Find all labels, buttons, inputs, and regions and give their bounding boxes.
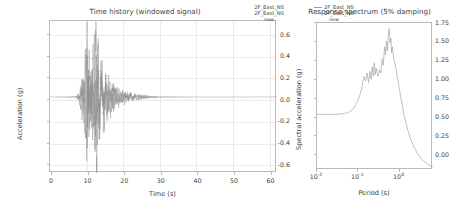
- legend-entry: 2F_East_NS: [254, 10, 284, 16]
- xtick-label: 10-2: [303, 174, 329, 180]
- xtick-label: 10-1: [344, 174, 370, 180]
- response-spectrum-xlabel: Period (s): [316, 189, 432, 197]
- response-spectrum-panel: Response spectrum (5% damping) Period (s…: [290, 0, 449, 207]
- response-spectrum-ylabel: Spectral acceleration (g): [295, 69, 303, 150]
- time-history-title: Time history (windowed signal): [0, 7, 290, 16]
- response-spectrum-legend: 2F_East_NS 2F_East_NS new: [314, 4, 354, 23]
- legend-line-icon: [314, 13, 322, 14]
- time-history-waveform: [50, 21, 277, 173]
- figure: Time history (windowed signal) Accelerat…: [0, 0, 449, 207]
- xtick-label: 10: [78, 178, 98, 184]
- time-history-axes: [49, 20, 276, 172]
- xtick-label: 100: [386, 174, 412, 180]
- response-spectrum-curve: [317, 23, 433, 170]
- response-spectrum-axes: [316, 22, 432, 169]
- xtick-label: 30: [151, 178, 171, 184]
- time-history-ylabel: Acceleration (g): [16, 88, 24, 140]
- xtick-label: 0: [41, 178, 61, 184]
- legend-label: 2F_East_NS: [324, 10, 354, 16]
- legend-sublabel: new: [254, 17, 284, 23]
- xtick-label: 20: [114, 178, 134, 184]
- time-history-legend: 2F_East_NS 2F_East_NS new: [254, 4, 284, 23]
- xtick-label: 60: [261, 178, 281, 184]
- xtick-label: 40: [187, 178, 207, 184]
- legend-line-icon: [314, 7, 322, 8]
- time-history-panel: Time history (windowed signal) Accelerat…: [0, 0, 290, 207]
- time-history-xlabel: Time (s): [49, 190, 276, 198]
- xtick-label: 50: [224, 178, 244, 184]
- legend-sublabel: new: [314, 17, 354, 23]
- legend-label: 2F_East_NS: [254, 10, 284, 16]
